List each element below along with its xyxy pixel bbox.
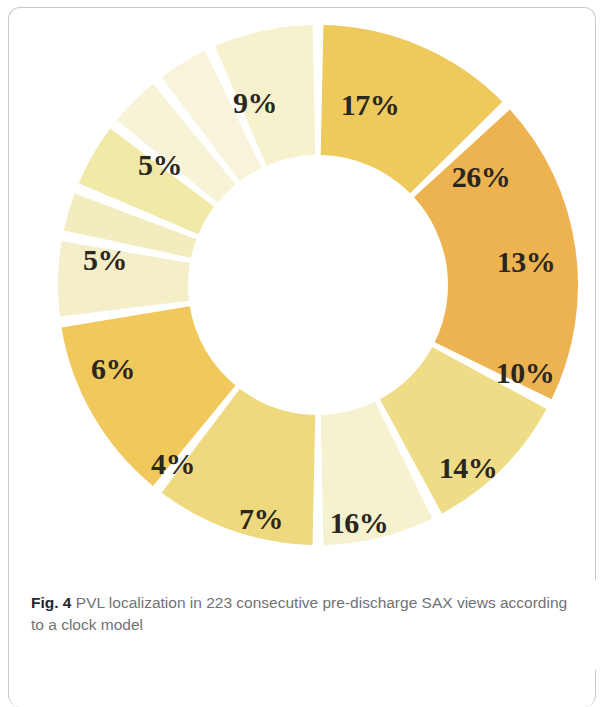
donut-slices [58, 25, 578, 545]
figure-caption: Fig. 4 PVL localization in 223 consecuti… [31, 592, 571, 636]
slice-value-label: 5% [138, 148, 182, 182]
donut-chart: 17%26%13%10%14%16%7%4%6%5%5%9% [0, 0, 605, 585]
figure-number: Fig. 4 [31, 594, 71, 611]
slice-value-label: 7% [239, 502, 283, 536]
slice-value-label: 6% [91, 352, 135, 386]
slice-value-label: 26% [452, 160, 511, 194]
slice-value-label: 14% [439, 451, 498, 485]
slice-value-label: 9% [233, 86, 277, 120]
slice-value-label: 5% [83, 243, 127, 277]
slice-value-label: 17% [341, 88, 400, 122]
figure-caption-text: PVL localization in 223 consecutive pre-… [31, 594, 567, 633]
slice-value-label: 10% [496, 356, 555, 390]
donut-chart-svg [0, 0, 605, 585]
slice-value-label: 16% [330, 506, 389, 540]
slice-value-label: 4% [151, 447, 195, 481]
slice-value-label: 13% [497, 245, 556, 279]
